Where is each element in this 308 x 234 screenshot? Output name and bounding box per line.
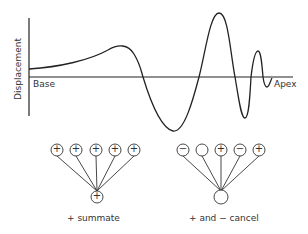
node-sign: +	[91, 143, 101, 154]
node-sign: +	[254, 143, 264, 154]
node-sign: +	[52, 143, 62, 154]
node-sign: +	[216, 143, 226, 154]
output-node	[214, 190, 228, 204]
diagram-canvas	[0, 0, 308, 234]
node-sign: +	[92, 190, 102, 201]
input-node	[196, 144, 208, 156]
base-label: Base	[33, 79, 55, 89]
cancel-caption: + and − cancel	[189, 213, 259, 223]
node-sign: +	[129, 143, 139, 154]
displacement-wave-curve	[29, 13, 272, 131]
node-sign: −	[235, 143, 245, 154]
node-sign: −	[178, 143, 188, 154]
apex-label: Apex	[274, 79, 297, 89]
node-sign: +	[110, 143, 120, 154]
node-sign: +	[71, 143, 81, 154]
y-axis-label: Displacement	[13, 33, 23, 105]
summate-caption: + summate	[67, 213, 120, 223]
